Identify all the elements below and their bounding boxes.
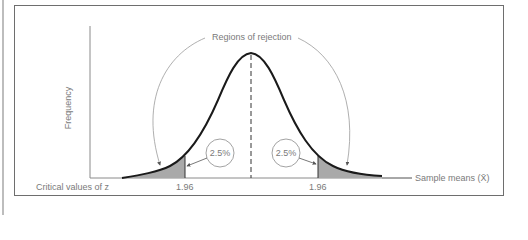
right-percent-pointer (299, 158, 316, 164)
right-critical-value: 1.96 (309, 183, 327, 192)
left-critical-value: 1.96 (176, 183, 194, 192)
left-annotation-arrow (153, 38, 205, 165)
left-rejection-region (122, 156, 185, 178)
regions-of-rejection-label: Regions of rejection (212, 33, 292, 42)
y-axis-label: Frequency (63, 87, 73, 130)
right-annotation-arrow (298, 38, 350, 165)
normal-curve (122, 53, 382, 178)
right-tail-percent: 2.5% (272, 149, 300, 158)
left-percent-pointer (187, 158, 207, 166)
x-axis-label: Sample means (X̄) (415, 174, 490, 183)
left-tail-percent: 2.5% (206, 149, 234, 158)
critical-values-label: Critical values of z (36, 183, 109, 192)
